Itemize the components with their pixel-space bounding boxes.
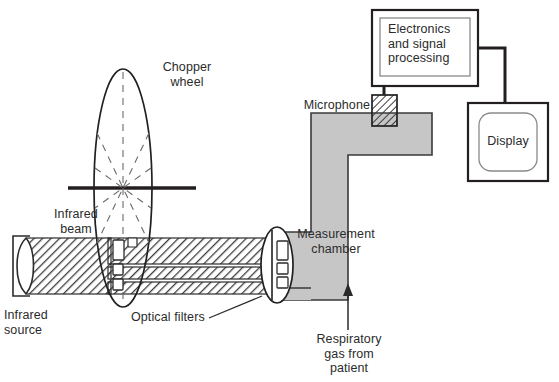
label-microphone: Microphone xyxy=(294,98,370,113)
measurement-chamber xyxy=(277,113,432,300)
microphone xyxy=(372,95,397,126)
diagram-canvas: Chopper wheel Infrared beam Infrared sou… xyxy=(0,0,559,382)
label-infrared-beam: Infrared beam xyxy=(42,207,110,236)
label-display: Display xyxy=(479,134,537,149)
label-optical-filters: Optical filters xyxy=(131,310,241,325)
label-respiratory-gas: Respiratory gas from patient xyxy=(312,332,386,376)
label-infrared-source: Infrared source xyxy=(4,308,78,337)
label-electronics: Electronics and signal processing xyxy=(388,22,468,66)
label-measurement-chamber: Measurement chamber xyxy=(288,227,384,256)
label-chopper-wheel: Chopper wheel xyxy=(145,60,229,89)
infrared-source xyxy=(13,236,34,296)
diagram-svg xyxy=(0,0,559,382)
